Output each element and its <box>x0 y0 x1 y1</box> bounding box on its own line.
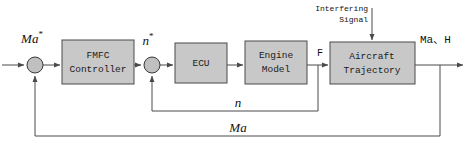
disturbance-label-line1: Interfering <box>315 4 368 13</box>
summing-junction-outer[interactable] <box>27 57 43 73</box>
block-fmfc-controller[interactable]: FMFC Controller <box>62 40 134 84</box>
signal-label-reference-input-star: * <box>38 29 43 39</box>
block-diagram-svg: FMFC Controller ECU Engine Model Aircraf… <box>0 0 470 148</box>
block-engine-model-label-line2: Model <box>262 64 291 75</box>
block-aircraft-trajectory-rect[interactable] <box>330 42 415 84</box>
signal-label-inner-reference-star: * <box>149 31 154 41</box>
block-engine-model-rect[interactable] <box>245 41 307 84</box>
block-fmfc-controller-label-line2: Controller <box>69 64 126 75</box>
signal-label-output: Ma、H <box>420 34 451 46</box>
block-fmfc-controller-rect[interactable] <box>62 40 134 84</box>
block-ecu-label: ECU <box>192 58 209 69</box>
signal-label-outer-feedback: Ma <box>228 120 247 135</box>
disturbance-label-line2: Signal <box>339 15 368 24</box>
signal-label-reference-input: Ma* <box>20 29 43 46</box>
block-aircraft-trajectory-label-line2: Trajectory <box>343 65 400 76</box>
summing-junction-inner[interactable] <box>144 57 160 73</box>
signal-label-thrust: F <box>317 48 323 59</box>
block-diagram-canvas: FMFC Controller ECU Engine Model Aircraf… <box>0 0 470 148</box>
block-engine-model[interactable]: Engine Model <box>245 41 307 84</box>
block-aircraft-trajectory[interactable]: Aircraft Trajectory <box>330 42 415 84</box>
block-aircraft-trajectory-label-line1: Aircraft <box>349 51 395 62</box>
signal-label-inner-feedback: n <box>235 95 242 110</box>
block-fmfc-controller-label-line1: FMFC <box>87 50 110 61</box>
block-engine-model-label-line1: Engine <box>259 50 294 61</box>
signal-label-reference-input-text: Ma <box>20 31 39 46</box>
block-ecu[interactable]: ECU <box>175 43 227 83</box>
signal-label-inner-reference: n* <box>143 31 155 48</box>
